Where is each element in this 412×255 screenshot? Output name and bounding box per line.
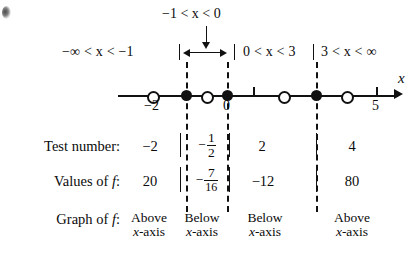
- cell-divider-bar-r1-left: [180, 133, 181, 157]
- double-arrow-shaft: [189, 52, 220, 53]
- fraction: 7 16: [204, 166, 218, 193]
- cell-graph-3-line1: Below: [247, 210, 282, 225]
- interval-label-4: 3 < x < ∞: [321, 44, 377, 60]
- cell-graph-3: Below x-axis: [238, 211, 292, 240]
- cell-values-3: −12: [240, 173, 286, 190]
- number-line-axis: [118, 95, 398, 97]
- axis-tick-mark-5: [376, 87, 378, 96]
- fraction-sign: −: [196, 172, 204, 188]
- axis-tick-mark: [253, 87, 255, 96]
- cell-test-number-3: 2: [240, 138, 284, 155]
- fraction-numerator: 1: [207, 131, 216, 146]
- interval-divider-bar-3: [313, 44, 314, 60]
- cell-graph-4-line1: Above: [334, 210, 370, 225]
- row-label-test-number: Test number:: [8, 138, 120, 155]
- interval-label-1: −∞ < x < −1: [62, 44, 134, 60]
- double-arrow-head-left-icon: [183, 49, 190, 57]
- axis-arrow-head-icon: [394, 89, 403, 99]
- axis-open-circle-neg-half: [201, 91, 214, 104]
- cell-graph-2-line1: Below: [184, 210, 219, 225]
- interval-divider-bar-right: [234, 44, 235, 60]
- cell-graph-2: Below x-axis: [175, 211, 229, 240]
- fraction-denominator: 2: [207, 146, 216, 160]
- double-arrow-head-right-icon: [220, 49, 227, 57]
- axis-open-circle-four: [341, 91, 354, 104]
- axis-name-label: x: [398, 70, 405, 87]
- cell-divider-bar-r2-third: [316, 167, 317, 192]
- fraction: 1 2: [207, 131, 216, 160]
- cell-graph-2-line2: x-axis: [186, 224, 218, 239]
- cell-divider-bar-r2-left: [180, 167, 181, 192]
- fraction-numerator: 7: [204, 166, 218, 181]
- axis-filled-circle-neg1: [181, 90, 192, 101]
- axis-open-circle-two: [278, 91, 291, 104]
- cell-values-1: 20: [128, 173, 172, 190]
- interval-label-top: −1 < x < 0: [162, 6, 221, 22]
- axis-tick-label-zero: 0: [223, 98, 230, 114]
- cell-values-2: − 7 16: [188, 167, 226, 192]
- cell-graph-1: Above x-axis: [124, 211, 174, 240]
- cell-divider-bar-r1-right: [229, 133, 230, 157]
- down-arrow-stem: [206, 26, 207, 43]
- cell-divider-bar-r1-third: [316, 133, 317, 157]
- cell-graph-4: Above x-axis: [325, 211, 379, 240]
- cell-test-number-2: − 1 2: [190, 133, 224, 157]
- cell-test-number-1: −2: [128, 138, 172, 155]
- interval-divider-bar-left: [179, 44, 180, 60]
- fraction-sign: −: [198, 137, 206, 153]
- sign-chart-figure: −1 < x < 0 −∞ < x < −1 0 < x < 3 3 < x <…: [0, 0, 412, 255]
- interval-label-3: 0 < x < 3: [243, 44, 296, 60]
- cell-divider-bar-r2-right: [229, 167, 230, 192]
- cell-graph-1-line1: Above: [131, 210, 167, 225]
- row-label-graph-of-f: Graph of f:: [8, 211, 120, 228]
- row-label-values-of-f: Values of f:: [8, 173, 120, 190]
- fraction-denominator: 16: [204, 181, 218, 193]
- down-arrow-head-icon: [202, 42, 210, 49]
- cell-test-number-4: 4: [330, 138, 374, 155]
- cell-graph-1-line2: x-axis: [133, 224, 165, 239]
- cell-graph-3-line2: x-axis: [249, 224, 281, 239]
- axis-filled-circle-three: [311, 90, 322, 101]
- figure-corner-mark: [2, 6, 11, 19]
- axis-tick-label-five: 5: [372, 98, 379, 114]
- axis-tick-label-neg2: −2: [144, 98, 159, 114]
- cell-values-4: 80: [330, 173, 374, 190]
- cell-graph-4-line2: x-axis: [336, 224, 368, 239]
